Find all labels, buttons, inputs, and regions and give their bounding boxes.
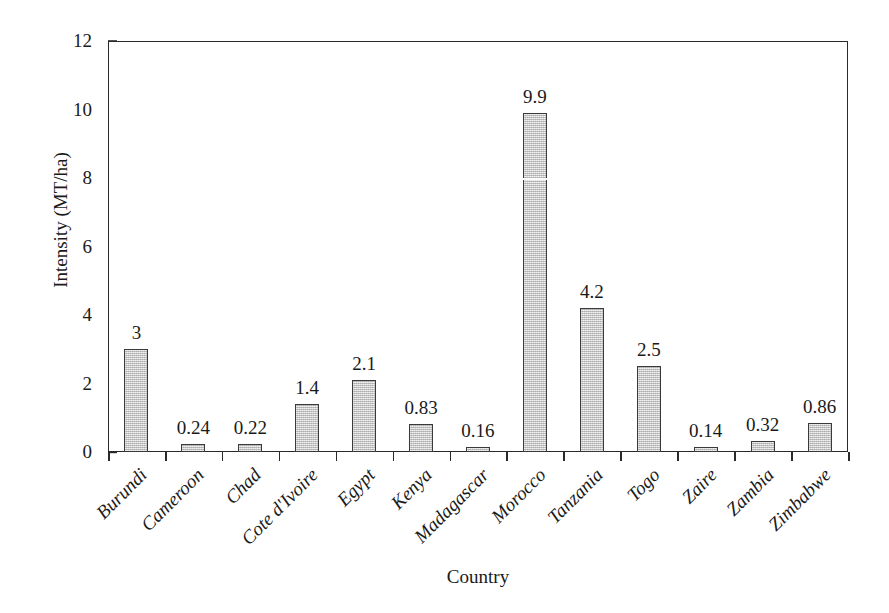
bar-value-label: 2.5	[637, 339, 661, 361]
x-tick-mark	[677, 452, 679, 461]
x-tick-mark	[222, 452, 224, 461]
bar[interactable]	[181, 444, 205, 452]
bar[interactable]	[295, 404, 319, 452]
bar-group[interactable]: 0.22	[222, 41, 279, 452]
bar-group[interactable]: 0.32	[734, 41, 791, 452]
bar-value-label: 3	[132, 322, 142, 344]
bar-value-label: 1.4	[295, 377, 319, 399]
bar-group[interactable]: 4.2	[563, 41, 620, 452]
bar-group[interactable]: 2.5	[620, 41, 677, 452]
bar-group[interactable]: 0.16	[450, 41, 507, 452]
bar[interactable]	[580, 308, 604, 452]
bar-value-label: 0.14	[689, 420, 722, 442]
bar-value-label: 4.2	[580, 281, 604, 303]
x-tick-mark	[393, 452, 395, 461]
x-tick-mark	[620, 452, 622, 461]
bar-scan-artifact	[523, 178, 547, 180]
bar-value-label: 2.1	[352, 353, 376, 375]
bar-group[interactable]: 3	[108, 41, 165, 452]
bar-group[interactable]: 9.9	[506, 41, 563, 452]
bar[interactable]	[808, 423, 832, 452]
bar[interactable]	[751, 441, 775, 452]
bar[interactable]	[637, 366, 661, 452]
bar-value-label: 0.16	[461, 420, 494, 442]
y-tick-label: 0	[32, 441, 92, 463]
bar[interactable]	[523, 113, 547, 452]
x-tick-mark	[165, 452, 167, 461]
bar[interactable]	[694, 447, 718, 452]
y-tick-label: 4	[32, 304, 92, 326]
bar-value-label: 0.32	[746, 414, 779, 436]
x-tick-mark	[734, 452, 736, 461]
bar[interactable]	[352, 380, 376, 452]
x-axis-title: Country	[108, 566, 848, 588]
y-tick-label: 8	[32, 167, 92, 189]
bar-value-label: 0.24	[177, 417, 210, 439]
bar-group[interactable]: 0.86	[791, 41, 848, 452]
bar[interactable]	[466, 447, 490, 452]
bar-group[interactable]: 0.14	[677, 41, 734, 452]
bar-value-label: 0.86	[803, 396, 836, 418]
bar-value-label: 9.9	[523, 86, 547, 108]
bar[interactable]	[238, 444, 262, 452]
x-tick-mark	[506, 452, 508, 461]
y-tick-label: 2	[32, 373, 92, 395]
bar-group[interactable]: 0.24	[165, 41, 222, 452]
bar-value-label: 0.83	[404, 397, 437, 419]
x-tick-mark	[108, 452, 110, 461]
bars-layer: 30.240.221.42.10.830.169.94.22.50.140.32…	[108, 41, 848, 452]
x-tick-mark	[336, 452, 338, 461]
bar-group[interactable]: 1.4	[279, 41, 336, 452]
bar-group[interactable]: 0.83	[393, 41, 450, 452]
bar[interactable]	[124, 349, 148, 452]
bar-group[interactable]: 2.1	[336, 41, 393, 452]
x-tick-mark	[791, 452, 793, 461]
y-tick-label: 12	[32, 30, 92, 52]
x-tick-mark	[450, 452, 452, 461]
x-tick-mark	[279, 452, 281, 461]
y-tick-label: 6	[32, 236, 92, 258]
bar-value-label: 0.22	[234, 417, 267, 439]
y-tick-label: 10	[32, 99, 92, 121]
bar-chart-figure: Intensity (MT/ha) 024681012 30.240.221.4…	[0, 0, 889, 613]
y-axis-title: Intensity (MT/ha)	[46, 20, 76, 420]
x-tick-mark	[563, 452, 565, 461]
x-tick-mark	[848, 452, 850, 461]
bar[interactable]	[409, 424, 433, 452]
